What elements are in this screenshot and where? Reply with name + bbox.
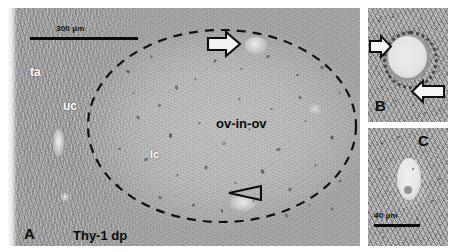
nucleus-speckle (378, 167, 381, 171)
scale-bar-300um (30, 37, 138, 40)
label-thy1-dense-plate: Thy-1 dp (73, 229, 127, 242)
open-arrowhead-follicle-icon (229, 186, 261, 200)
scale-bar-40um (374, 224, 420, 227)
nucleus-speckle (432, 200, 435, 203)
nucleus-speckle (438, 223, 442, 226)
nucleus-speckle (398, 136, 401, 139)
nucleus-speckle (380, 141, 383, 144)
label-tunica-albuginea: ta (30, 66, 41, 78)
figure-panel-group: 300 µm ta uc lc ov-in-ov Thy-1 dp A B (0, 0, 452, 252)
scale-bar-300um-label: 300 µm (56, 24, 85, 33)
panel-c: C 40 µm (368, 128, 448, 246)
nucleus-speckle (386, 190, 389, 193)
block-arrow-lower-right-icon (412, 81, 444, 102)
label-upper-cortex: uc (63, 100, 77, 112)
panel-a-overlay (8, 8, 360, 246)
panel-label-b: B (375, 98, 386, 113)
label-lower-cortex: lc (150, 149, 159, 160)
scale-bar-40um-label: 40 µm (374, 211, 398, 220)
block-arrow-follicle-icon (208, 32, 240, 56)
nucleus-speckle (417, 218, 419, 221)
panel-label-a: A (24, 226, 35, 241)
panel-a: 300 µm ta uc lc ov-in-ov Thy-1 dp A (8, 8, 360, 246)
panel-c-nuclei (368, 128, 448, 246)
nucleus-speckle (438, 178, 441, 180)
nucleus-speckle (405, 238, 407, 241)
block-arrow-upper-left-icon (370, 36, 391, 57)
panel-b: B (368, 8, 448, 122)
panel-label-c: C (418, 133, 429, 148)
nucleus-speckle (428, 232, 431, 235)
label-ovary-in-ovary: ov-in-ov (216, 117, 267, 130)
nucleus-speckle (412, 168, 415, 171)
nucleus-speckle (382, 236, 385, 239)
nucleus-speckle (436, 156, 438, 158)
